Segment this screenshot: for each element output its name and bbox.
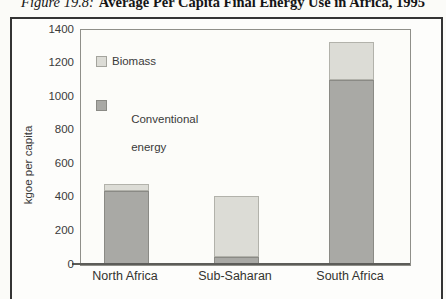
bar-segment-biomass-3 <box>329 42 374 81</box>
y-tick-label-1200: 1200 <box>26 56 74 68</box>
bar-segment-conventional-1 <box>104 191 149 265</box>
legend-swatch-biomass <box>96 56 107 67</box>
figure-number: Figure 19.8: <box>21 0 94 10</box>
bar-segment-biomass-1 <box>104 184 149 192</box>
y-tick-label-1400: 1400 <box>26 23 74 35</box>
bar-segment-biomass-2 <box>214 196 259 256</box>
x-category-label-1: North Africa <box>63 269 187 283</box>
x-category-label-3: South Africa <box>288 269 412 283</box>
y-tick-label-0: 0 <box>26 258 74 270</box>
legend-label-biomass: Biomass <box>112 54 156 68</box>
y-tick-label-200: 200 <box>26 224 74 236</box>
x-category-label-2: Sub-Saharan <box>173 269 297 283</box>
legend-swatch-conventional <box>96 100 107 111</box>
bar-segment-conventional-3 <box>329 80 374 265</box>
figure-caption: Figure 19.8:Average Per Capita Final Ene… <box>0 0 446 11</box>
y-tick-label-1000: 1000 <box>26 90 74 102</box>
legend-label-conventional-line2: energy <box>131 141 166 153</box>
y-axis-title: kgoe per capita <box>22 126 34 205</box>
scanned-figure-page: Figure 19.8:Average Per Capita Final Ene… <box>0 0 446 299</box>
figure-title-text: Average Per Capita Final Energy Use in A… <box>99 0 425 10</box>
x-axis-line <box>72 263 410 265</box>
legend-label-conventional-line1: Conventional <box>131 113 198 125</box>
legend-label-conventional: Conventional energy <box>112 98 198 168</box>
